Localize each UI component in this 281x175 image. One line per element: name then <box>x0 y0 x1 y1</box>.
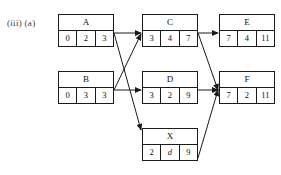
node-label-c: C <box>143 15 197 31</box>
node-box-d: D329 <box>142 71 198 104</box>
node-cell-x-1: d <box>161 145 179 160</box>
node-cell-d-2: 9 <box>180 88 197 103</box>
node-box-c: C347 <box>142 14 198 47</box>
node-box-f: F7211 <box>219 71 275 104</box>
node-label-d: D <box>143 72 197 88</box>
node-cell-c-2: 7 <box>180 31 197 46</box>
node-label-f: F <box>220 72 274 88</box>
node-cell-x-0: 2 <box>143 145 161 160</box>
node-cells-a: 023 <box>59 31 113 46</box>
node-cell-a-2: 3 <box>96 31 113 46</box>
node-cell-a-0: 0 <box>59 31 77 46</box>
edge-c-f <box>198 33 218 90</box>
node-cell-c-1: 4 <box>161 31 179 46</box>
node-cells-e: 7411 <box>220 31 274 46</box>
node-cell-e-2: 11 <box>257 31 274 46</box>
node-cell-b-1: 3 <box>77 88 95 103</box>
node-cell-f-2: 11 <box>257 88 274 103</box>
node-cell-b-0: 0 <box>59 88 77 103</box>
node-box-a: A023 <box>58 14 114 47</box>
node-label-a: A <box>59 15 113 31</box>
node-label-x: X <box>143 129 197 145</box>
node-cell-a-1: 2 <box>77 31 95 46</box>
node-cells-f: 7211 <box>220 88 274 103</box>
node-box-b: B033 <box>58 71 114 104</box>
node-cell-f-0: 7 <box>220 88 238 103</box>
node-cell-e-1: 4 <box>238 31 256 46</box>
node-box-x: X2d9 <box>142 128 198 161</box>
node-cell-x-2: 9 <box>180 145 197 160</box>
node-cells-d: 329 <box>143 88 197 103</box>
node-cell-d-1: 2 <box>161 88 179 103</box>
node-box-e: E7411 <box>219 14 275 47</box>
node-cells-x: 2d9 <box>143 145 197 160</box>
node-cell-c-0: 3 <box>143 31 161 46</box>
node-cell-b-2: 3 <box>96 88 113 103</box>
node-cell-d-0: 3 <box>143 88 161 103</box>
node-label-e: E <box>220 15 274 31</box>
edge-x-f <box>198 90 218 158</box>
node-cells-b: 033 <box>59 88 113 103</box>
node-cells-c: 347 <box>143 31 197 46</box>
node-label-b: B <box>59 72 113 88</box>
node-cell-f-1: 2 <box>238 88 256 103</box>
network-diagram: (iii) (a) A023B033C347D329X2d9E7411F7211 <box>0 0 281 175</box>
node-cell-e-0: 7 <box>220 31 238 46</box>
